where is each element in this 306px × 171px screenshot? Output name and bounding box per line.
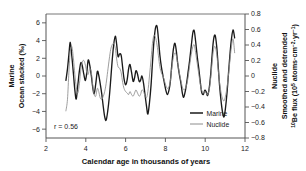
x-axis-title: Calendar age in thousands of years (82, 157, 210, 166)
left-tick-label: 4 (36, 37, 40, 44)
correlation-annotation: r = 0.56 (54, 123, 78, 130)
right-tick-label: 0.4 (251, 41, 261, 48)
x-tick-label: 12 (241, 145, 249, 152)
right-tick-label: −0.6 (251, 119, 265, 126)
right-tick-label: −0.4 (251, 103, 265, 110)
right-axis-ticks: −0.8−0.6−0.4−0.200.20.40.60.8 (245, 10, 265, 141)
left-tick-label: 2 (36, 55, 40, 62)
left-tick-label: 0 (36, 72, 40, 79)
right-tick-label: 0.2 (251, 57, 261, 64)
chart-canvas: −6−4−20246 −0.8−0.6−0.4−0.200.20.40.60.8… (0, 0, 306, 171)
left-axis-title-line2: Ocean stacked (‰) (17, 43, 26, 108)
left-tick-label: 6 (36, 19, 40, 26)
right-tick-label: 0 (251, 72, 255, 79)
left-axis-title-line1: Marine (7, 64, 16, 87)
legend-label-nuclide: Nuclide (207, 121, 230, 128)
right-tick-label: −0.8 (251, 134, 265, 141)
x-tick-label: 6 (124, 145, 128, 152)
x-tick-label: 10 (201, 145, 209, 152)
left-tick-label: −6 (32, 126, 40, 133)
right-tick-label: −0.2 (251, 88, 265, 95)
figure-container: −6−4−20246 −0.8−0.6−0.4−0.200.20.40.60.8… (0, 0, 306, 171)
data-series-group (66, 25, 235, 120)
right-tick-label: 0.6 (251, 26, 261, 33)
x-tick-label: 8 (163, 145, 167, 152)
legend: MarineNuclide (190, 110, 229, 128)
left-axis-ticks: −6−4−20246 (32, 19, 46, 132)
left-tick-label: −2 (32, 90, 40, 97)
right-axis-title-line2: Smoothed and detrended (280, 33, 289, 120)
right-axis-title: Nuclide Smoothed and detrended 10Be flux… (270, 24, 299, 128)
legend-label-marine: Marine (207, 110, 228, 117)
x-tick-label: 4 (84, 145, 88, 152)
x-axis-ticks: 24681012 (44, 138, 249, 152)
left-axis-title: Marine Ocean stacked (‰) (7, 43, 26, 108)
plot-frame (46, 14, 245, 138)
left-tick-label: −4 (32, 108, 40, 115)
right-axis-title-line3: 10Be flux (105 atoms·cm−2·yr−1) (290, 24, 299, 128)
right-axis-title-line1: Nuclide (270, 63, 279, 89)
right-tick-label: 0.8 (251, 10, 261, 17)
x-tick-label: 2 (44, 145, 48, 152)
